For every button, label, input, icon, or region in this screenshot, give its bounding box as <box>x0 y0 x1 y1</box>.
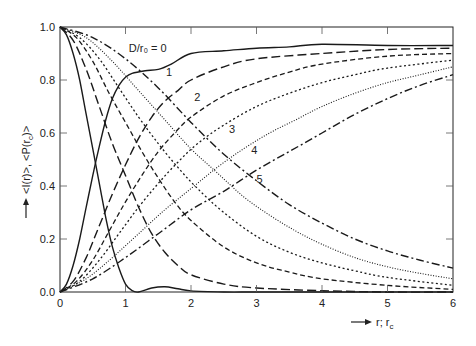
curves <box>60 27 453 292</box>
curve-label: 2 <box>194 91 200 103</box>
x-axis-title: r; rc <box>376 316 393 331</box>
x-tick-label: 1 <box>122 297 128 309</box>
curve-label: 1 <box>166 66 172 78</box>
arrow-head-icon <box>23 198 29 205</box>
x-tick-label: 6 <box>450 297 456 309</box>
curve-label: 3 <box>229 123 235 135</box>
y-axis-title: <I(r)>, <P(rc)> <box>20 126 35 194</box>
x-tick-label: 4 <box>319 297 325 309</box>
x-tick-label: 3 <box>253 297 259 309</box>
x-axis-label: r; rc <box>351 316 393 331</box>
y-tick-label: 1.0 <box>40 21 55 33</box>
series-line-6 <box>60 44 453 292</box>
curve-label: 4 <box>251 144 257 156</box>
x-tick-label: 2 <box>188 297 194 309</box>
x-tick-label: 5 <box>384 297 390 309</box>
series-line-1 <box>60 27 453 292</box>
y-tick-label: 0.8 <box>40 74 55 86</box>
y-tick-label: 0.0 <box>40 286 55 298</box>
curve-label: D/r₀ = 0 <box>129 42 167 54</box>
x-tick-label: 0 <box>57 297 63 309</box>
y-tick-label: 0.6 <box>40 127 55 139</box>
arrow-head-icon <box>365 319 372 325</box>
y-tick-label: 0.4 <box>40 180 55 192</box>
curve-label: 5 <box>257 173 263 185</box>
y-axis-label: <I(r)>, <P(rc)> <box>20 126 35 218</box>
y-tick-label: 0.2 <box>40 233 55 245</box>
chart: 01234560.00.20.40.60.81.0 D/r₀ = 012345 … <box>0 0 476 346</box>
